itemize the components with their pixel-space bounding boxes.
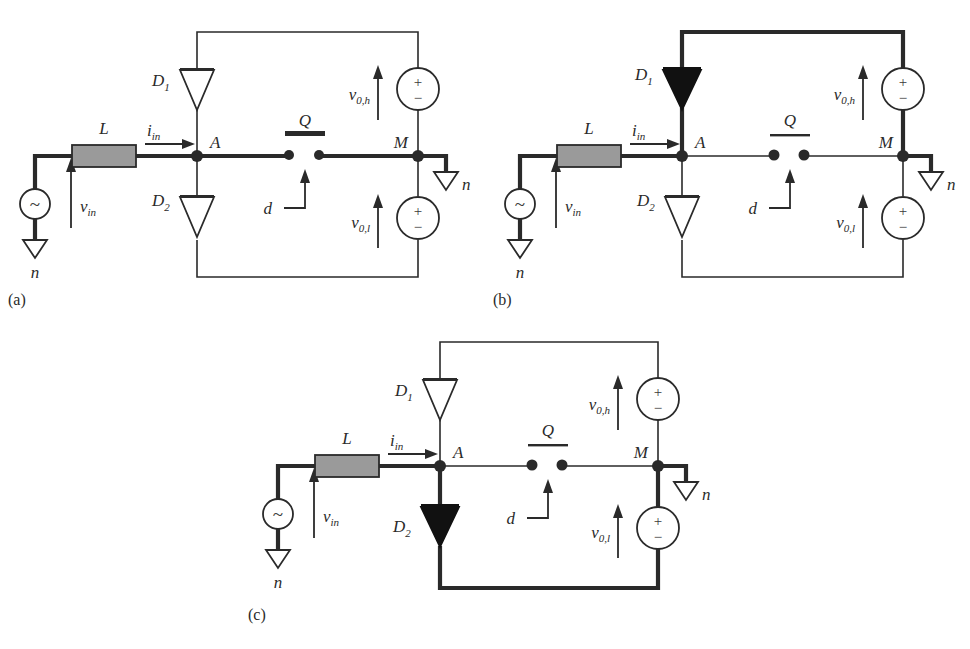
switch-q-label: Q — [784, 111, 796, 130]
minus-sign-high: − — [414, 90, 422, 106]
duty-label: d — [507, 509, 516, 528]
ac-source: ~ — [20, 189, 50, 219]
switch-q-label: Q — [299, 111, 311, 130]
node-a-label: A — [209, 133, 221, 152]
ground-m — [434, 172, 458, 190]
v0l-arrow — [373, 194, 383, 248]
node-m-dot — [897, 150, 909, 162]
minus-sign-low: − — [654, 529, 662, 545]
v0l-arrow — [613, 504, 623, 558]
duty-label: d — [749, 199, 758, 218]
switch-q[interactable] — [527, 444, 569, 471]
minus-sign-high: − — [899, 90, 907, 106]
inductor-label: L — [583, 119, 593, 138]
ac-source: ~ — [263, 499, 293, 529]
diode-d1 — [423, 379, 457, 420]
diode2-label: D2 — [636, 191, 655, 213]
node-m-label: M — [393, 133, 409, 152]
plus-sign-high: + — [414, 74, 422, 90]
vin-label: vin — [565, 197, 582, 218]
switch-q[interactable] — [769, 134, 811, 161]
duty-pointer — [527, 479, 553, 518]
ground-source-label: n — [31, 263, 40, 282]
ac-source: ~ — [505, 189, 535, 219]
v0h-label: v0,h — [349, 85, 371, 106]
vsource-out-high: + − — [637, 378, 679, 420]
diode1-label: D1 — [634, 65, 653, 87]
circuit-panel-c: D1 D2 ~ n vin L iin — [240, 320, 740, 649]
node-m-label: M — [633, 443, 649, 462]
plus-sign-high: + — [654, 384, 662, 400]
duty-label: d — [264, 199, 273, 218]
inductor-label: L — [341, 429, 351, 448]
inductor-l — [72, 145, 136, 167]
inductor-l — [315, 455, 379, 477]
panel-c-top-loop — [440, 342, 658, 466]
vin-arrow — [551, 158, 561, 228]
iin-label: iin — [632, 121, 646, 142]
diode-d1 — [663, 69, 701, 110]
v0h-arrow — [613, 375, 623, 430]
diode-d2 — [180, 196, 214, 237]
node-a-dot — [191, 150, 203, 162]
vsource-out-low: + − — [882, 197, 924, 239]
ac-source-symbol: ~ — [515, 194, 525, 215]
minus-sign-low: − — [899, 219, 907, 235]
vin-arrow — [309, 468, 319, 538]
diode-d1 — [180, 69, 214, 110]
node-a-label: A — [452, 443, 464, 462]
v0h-label: v0,h — [589, 395, 611, 416]
ground-source-label: n — [516, 263, 525, 282]
ground-m-label: n — [702, 485, 711, 504]
v0l-label: v0,l — [836, 213, 855, 234]
vsource-out-low: + − — [397, 197, 439, 239]
ground-source — [266, 550, 290, 568]
diode-d2 — [665, 196, 699, 237]
inductor-l — [557, 145, 621, 167]
v0l-label: v0,l — [591, 523, 610, 544]
ground-m — [674, 482, 698, 500]
iin-label: iin — [390, 431, 404, 452]
vsource-out-high: + − — [397, 68, 439, 110]
duty-pointer — [769, 169, 795, 208]
ground-m-label: n — [462, 175, 471, 194]
panel-b-top-loop — [682, 32, 903, 156]
plus-sign-low: + — [414, 203, 422, 219]
minus-sign-low: − — [414, 219, 422, 235]
iin-label: iin — [147, 121, 161, 142]
plus-sign-low: + — [654, 513, 662, 529]
vin-label: vin — [80, 197, 97, 218]
ground-m-label: n — [947, 175, 956, 194]
diode2-label: D2 — [392, 517, 411, 539]
ac-source-symbol: ~ — [273, 504, 283, 525]
panel-b-bold-input — [520, 156, 931, 240]
panel-c-caption: (c) — [248, 606, 266, 624]
panel-a-caption: (a) — [8, 291, 26, 309]
v0h-label: v0,h — [834, 85, 856, 106]
switch-q[interactable] — [284, 131, 325, 160]
v0l-label: v0,l — [351, 213, 370, 234]
panel-a-schematic: D1 D2 ~ n vin L ii — [0, 0, 485, 320]
node-a-label: A — [694, 133, 706, 152]
node-m-label: M — [878, 133, 894, 152]
node-a-dot — [676, 150, 688, 162]
duty-pointer — [284, 169, 310, 208]
ground-m — [919, 172, 943, 190]
diode-d2 — [421, 506, 459, 547]
panel-a-bottom-loop — [197, 240, 418, 277]
inductor-label: L — [98, 119, 108, 138]
node-m-dot — [652, 460, 664, 472]
switch-q-label: Q — [542, 421, 554, 440]
v0l-arrow — [858, 194, 868, 248]
panel-c-bold-input — [278, 466, 686, 550]
vin-arrow — [66, 158, 76, 228]
circuit-panel-b: D1 D2 ~ n vin L iin — [485, 0, 970, 320]
panel-b-schematic: D1 D2 ~ n vin L iin — [485, 0, 970, 320]
plus-sign-low: + — [899, 203, 907, 219]
diode1-label: D1 — [394, 381, 413, 403]
circuit-panel-a: D1 D2 ~ n vin L ii — [0, 0, 485, 320]
node-a-dot — [434, 460, 446, 472]
v0h-arrow — [858, 65, 868, 120]
ground-source — [508, 240, 532, 258]
ac-source-symbol: ~ — [30, 194, 40, 215]
